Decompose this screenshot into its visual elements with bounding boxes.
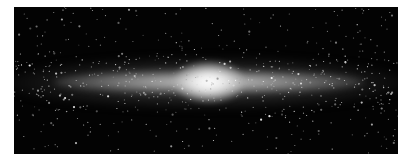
galaxy-image (14, 7, 398, 154)
star-field (14, 7, 398, 154)
